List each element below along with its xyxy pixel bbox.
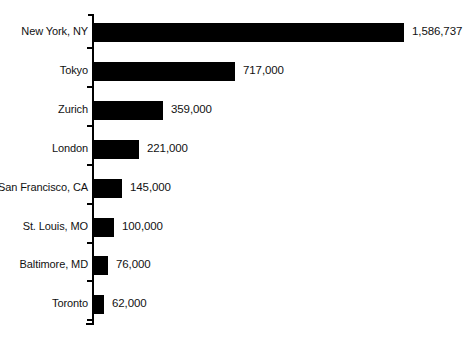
- bar: [94, 218, 114, 237]
- axis-tick: [87, 47, 92, 49]
- value-label: 76,000: [116, 258, 151, 271]
- bar-row: St. Louis, MO100,000: [0, 209, 464, 247]
- axis-tick: [87, 280, 92, 282]
- axis-tick: [87, 203, 92, 205]
- bar: [94, 179, 122, 198]
- category-label: London: [52, 142, 88, 155]
- bar: [94, 140, 139, 159]
- bar: [94, 23, 404, 42]
- value-label: 145,000: [130, 181, 171, 194]
- axis-tick: [87, 319, 92, 321]
- category-label: San Francisco, CA: [0, 181, 88, 194]
- category-label: New York, NY: [21, 25, 88, 38]
- bar-row: London221,000: [0, 131, 464, 169]
- axis-tick: [87, 125, 92, 127]
- bar: [94, 62, 235, 81]
- bar-row: Toronto62,000: [0, 286, 464, 324]
- bar-chart: New York, NY1,586,737Tokyo717,000Zurich3…: [0, 0, 464, 337]
- bar: [94, 101, 163, 120]
- value-label: 100,000: [122, 220, 163, 233]
- category-label: Tokyo: [60, 64, 88, 77]
- axis-tick: [87, 164, 92, 166]
- category-label: Zurich: [58, 103, 88, 116]
- bar-row: San Francisco, CA145,000: [0, 170, 464, 208]
- axis-tick: [87, 86, 92, 88]
- category-label: St. Louis, MO: [23, 220, 88, 233]
- axis-tick: [87, 242, 92, 244]
- category-label: Baltimore, MD: [20, 258, 88, 271]
- bar: [94, 256, 108, 275]
- value-label: 221,000: [147, 142, 188, 155]
- value-label: 62,000: [112, 297, 147, 310]
- bar-row: New York, NY1,586,737: [0, 14, 464, 52]
- bar: [94, 295, 104, 314]
- value-label: 1,586,737: [412, 25, 462, 38]
- bar-row: Baltimore, MD76,000: [0, 247, 464, 285]
- category-label: Toronto: [52, 297, 88, 310]
- bar-row: Zurich359,000: [0, 92, 464, 130]
- value-label: 717,000: [243, 64, 284, 77]
- bar-row: Tokyo717,000: [0, 53, 464, 91]
- plot-area: New York, NY1,586,737Tokyo717,000Zurich3…: [0, 0, 464, 337]
- value-label: 359,000: [171, 103, 212, 116]
